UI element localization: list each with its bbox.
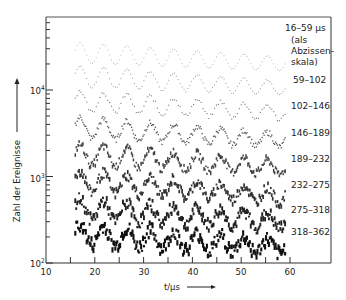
series-label: 275–318 bbox=[291, 205, 330, 215]
data-series bbox=[74, 43, 286, 261]
series-note: skala) bbox=[291, 57, 318, 67]
x-axis-label: t/µs bbox=[164, 281, 216, 292]
series-curve bbox=[75, 90, 286, 121]
y-axis-label: Zahl der Ereignisse bbox=[11, 78, 22, 222]
series-curve bbox=[75, 66, 286, 95]
y-tick-label-10000: 104 bbox=[30, 84, 45, 96]
x-tick-labels: 10 20 30 40 50 60 bbox=[41, 266, 296, 277]
x-tick-label: 10 bbox=[41, 266, 52, 277]
x-tick-label: 50 bbox=[236, 266, 247, 277]
series-label: 16–59 µs bbox=[285, 23, 326, 33]
series-curve bbox=[75, 43, 286, 72]
plot-frame bbox=[46, 17, 331, 263]
x-tick-label: 30 bbox=[139, 266, 150, 277]
x-tick-label: 60 bbox=[285, 266, 296, 277]
series-labels: 16–59 µs (als Abzissen- skala) 59–102 10… bbox=[285, 23, 334, 237]
x-tick-label: 20 bbox=[90, 266, 101, 277]
x-axis-label-text: t/µs bbox=[164, 281, 181, 292]
series-note: (als bbox=[291, 35, 308, 45]
y-axis-ticks bbox=[46, 23, 53, 263]
x-axis-arrowhead-icon bbox=[211, 285, 216, 289]
series-curve bbox=[74, 220, 286, 260]
x-tick-label: 40 bbox=[188, 266, 199, 277]
series-label: 189–232 bbox=[291, 154, 330, 164]
y-tick-label-1000: 103 bbox=[30, 172, 45, 184]
series-note: Abzissen- bbox=[291, 46, 334, 56]
series-label: 318–362 bbox=[291, 227, 330, 237]
series-label: 102–146 bbox=[291, 101, 330, 111]
series-label: 59–102 bbox=[293, 75, 326, 85]
y-axis-arrowhead-icon bbox=[15, 78, 20, 84]
series-curve bbox=[75, 114, 286, 148]
y-axis-label-text: Zahl der Ereignisse bbox=[11, 140, 22, 222]
chart: 10 20 30 40 50 60 102 103 104 t/µs Zahl … bbox=[0, 0, 346, 300]
series-label: 146–189 bbox=[291, 128, 330, 138]
y-tick-labels: 102 103 104 bbox=[30, 84, 45, 269]
series-label: 232–275 bbox=[291, 180, 330, 190]
